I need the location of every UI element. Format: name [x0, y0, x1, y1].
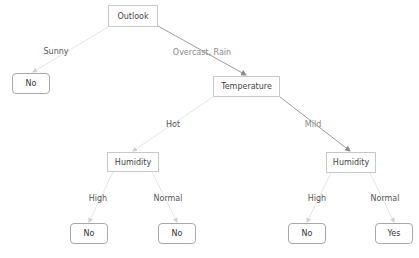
edge-label-overcast-rain: Overcast, Rain [173, 48, 231, 57]
edge-label-normal-left: Normal [154, 194, 183, 203]
node-temperature-label: Temperature [221, 82, 272, 91]
leaf-hot-high-no[interactable]: No [70, 223, 108, 244]
node-outlook[interactable]: Outlook [108, 5, 158, 27]
leaf-hot-normal-no[interactable]: No [158, 223, 196, 244]
leaf-hot-high-label: No [84, 229, 95, 238]
node-outlook-label: Outlook [117, 12, 148, 21]
leaf-mild-normal-label: Yes [388, 229, 401, 238]
node-humidity-left-label: Humidity [115, 158, 151, 167]
node-temperature[interactable]: Temperature [213, 76, 280, 97]
leaf-sunny-no[interactable]: No [12, 73, 50, 94]
edge-label-high-left: High [89, 194, 107, 203]
edge-label-sunny: Sunny [43, 47, 68, 56]
leaf-mild-high-no[interactable]: No [288, 223, 326, 244]
edge-label-normal-right: Normal [371, 194, 400, 203]
node-humidity-left[interactable]: Humidity [107, 152, 159, 172]
node-humidity-right[interactable]: Humidity [326, 152, 376, 173]
leaf-hot-normal-label: No [172, 229, 183, 238]
node-humidity-right-label: Humidity [333, 158, 369, 167]
edge-label-hot: Hot [166, 120, 180, 129]
edge-label-high-right: High [308, 194, 326, 203]
edges-layer [0, 0, 419, 258]
leaf-sunny-label: No [26, 79, 37, 88]
leaf-mild-normal-yes[interactable]: Yes [375, 223, 413, 244]
leaf-mild-high-label: No [302, 229, 313, 238]
edge-label-mild: Mild [305, 120, 321, 129]
